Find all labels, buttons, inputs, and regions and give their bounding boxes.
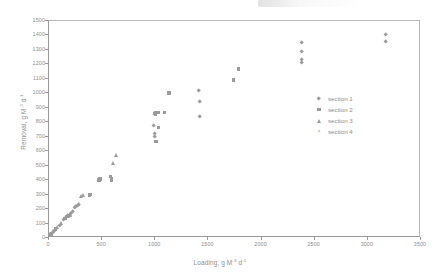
x-tick-label: 2000	[246, 241, 276, 247]
title-artifact	[258, 0, 378, 7]
y-axis-title: Removal, g M-3 d-1	[19, 47, 27, 197]
y-tick-mark	[45, 121, 48, 122]
y-tick-label: 100	[17, 220, 45, 226]
y-tick-mark	[45, 20, 48, 21]
y-tick-label: 1400	[17, 31, 45, 37]
chart-legend: section 1section 2section 3×section 4	[318, 93, 384, 137]
y-tick-mark	[45, 107, 48, 108]
legend-marker-cross-icon: ×	[317, 130, 321, 134]
legend-item-section-1[interactable]: section 1	[318, 93, 384, 104]
x-tick-mark	[367, 237, 368, 240]
x-tick-label: 0	[33, 241, 63, 247]
y-tick-mark	[45, 165, 48, 166]
x-tick-label: 500	[86, 241, 116, 247]
y-tick-mark	[45, 63, 48, 64]
x-tick-label: 2500	[299, 241, 329, 247]
x-tick-label: 1500	[192, 241, 222, 247]
x-axis-title: Loading, g M-3 d-1	[0, 258, 440, 266]
y-axis-title-sup1: -3	[19, 104, 24, 108]
x-tick-mark	[48, 237, 49, 240]
legend-marker-diamond-icon	[317, 96, 322, 101]
y-tick-mark	[45, 208, 48, 209]
scatter-chart: 0100200300400500600700800900100011001200…	[0, 0, 440, 279]
legend-item-section-2[interactable]: section 2	[318, 104, 384, 115]
legend-label: section 2	[328, 106, 353, 113]
legend-label: section 3	[328, 117, 353, 124]
y-tick-mark	[45, 150, 48, 151]
y-axis-title-mid: d	[20, 99, 27, 105]
y-axis-title-sup2: -1	[19, 94, 24, 98]
y-tick-mark	[45, 223, 48, 224]
legend-item-section-4[interactable]: ×section 4	[318, 126, 384, 137]
y-tick-mark	[45, 194, 48, 195]
legend-label: section 1	[328, 95, 353, 102]
y-tick-mark	[45, 136, 48, 137]
x-tick-mark	[261, 237, 262, 240]
x-tick-mark	[420, 237, 421, 240]
x-tick-mark	[101, 237, 102, 240]
y-tick-label: 0	[17, 234, 45, 240]
legend-marker-triangle-icon	[317, 119, 321, 123]
y-tick-label: 200	[17, 205, 45, 211]
x-tick-mark	[207, 237, 208, 240]
y-tick-mark	[45, 179, 48, 180]
x-tick-mark	[154, 237, 155, 240]
y-tick-mark	[45, 34, 48, 35]
x-axis-title-sup2: -1	[242, 258, 246, 263]
y-tick-label: 1500	[17, 17, 45, 23]
y-tick-mark	[45, 92, 48, 93]
x-tick-label: 1000	[139, 241, 169, 247]
legend-label: section 4	[328, 128, 353, 135]
legend-marker-square-icon	[317, 108, 320, 111]
x-tick-mark	[314, 237, 315, 240]
x-tick-label: 3500	[405, 241, 435, 247]
x-axis-title-prefix: Loading, g M	[194, 259, 233, 266]
y-tick-mark	[45, 78, 48, 79]
y-axis-title-prefix: Removal, g M	[20, 108, 27, 149]
legend-item-section-3[interactable]: section 3	[318, 115, 384, 126]
x-tick-label: 3000	[352, 241, 382, 247]
y-tick-mark	[45, 49, 48, 50]
